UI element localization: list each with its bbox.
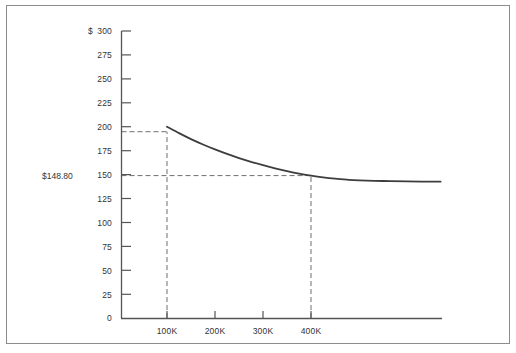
y-tick-label-200: 200 [72,122,112,132]
y-tick-label-275: 275 [72,50,112,60]
x-tick-label-100k: 100K [147,326,187,336]
chart-figure: $ 300 275 250 225 200 175 150 125 100 75… [0,0,516,353]
y-tick-label-25: 25 [72,290,112,300]
y-tick-label-250: 250 [72,74,112,84]
y-tick-label-100: 100 [72,218,112,228]
y-tick-label-125: 125 [72,194,112,204]
value-callout-label: $148.80 [42,171,73,181]
y-tick-label-0: 0 [72,313,112,323]
data-series-line [167,127,441,182]
x-axis-ticks [167,311,311,319]
x-tick-label-400k: 400K [291,326,331,336]
y-axis-ticks [122,31,132,294]
y-tick-label-175: 175 [72,146,112,156]
x-tick-label-300k: 300K [243,326,283,336]
y-tick-label-150: 150 [72,170,112,180]
y-tick-label-300: 300 [72,26,112,36]
y-tick-label-75: 75 [72,242,112,252]
y-tick-label-50: 50 [72,266,112,276]
x-tick-label-200k: 200K [195,326,235,336]
y-tick-label-225: 225 [72,98,112,108]
